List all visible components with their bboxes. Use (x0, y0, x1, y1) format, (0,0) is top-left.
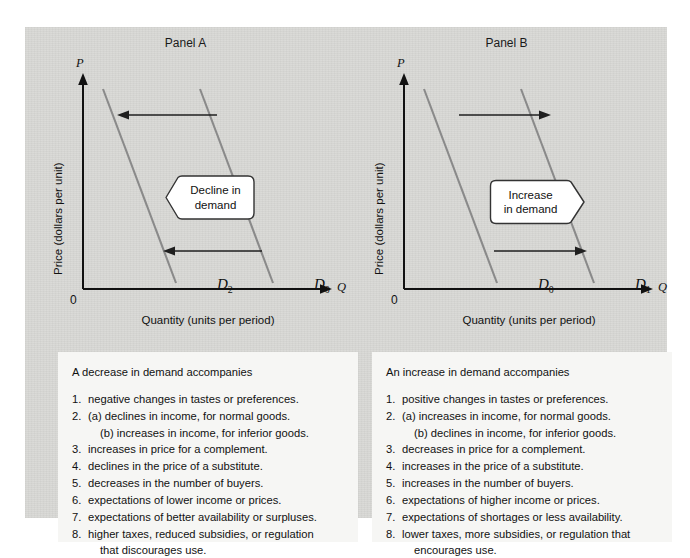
item-text: positive changes in tastes or preference… (402, 393, 608, 405)
box-a-list: 1.negative changes in tastes or preferen… (72, 391, 344, 558)
box-b-heading: An increase in demand accompanies (386, 364, 658, 380)
curve-subscript: 0 (549, 284, 554, 295)
panel-b-callout: Increase in demand (489, 179, 585, 225)
item-number: 6. (72, 492, 81, 508)
panel-a-curve-label-d2: D2 (217, 276, 233, 295)
callout-line-2: demand (195, 199, 237, 211)
list-item: 2.(a) declines in income, for normal goo… (72, 408, 344, 441)
panel-a: Panel A P Q 0 Price (dollars per unit) Q… (25, 27, 346, 327)
item-number: 7. (72, 509, 81, 525)
curve-subscript: 0 (325, 284, 330, 295)
item-text: decreases in the number of buyers. (88, 477, 263, 489)
item-number: 1. (386, 391, 395, 407)
item-text: declines in the price of a substitute. (88, 460, 263, 472)
panel-a-y-axis-letter: P (76, 56, 84, 71)
item-text: expectations of lower income or prices. (88, 494, 281, 506)
panel-b-curve-label-d1: D1 (635, 276, 651, 295)
curve-subscript: 1 (646, 284, 651, 295)
item-text: negative changes in tastes or preference… (88, 393, 299, 405)
item-text: higher taxes, reduced subsidies, or regu… (88, 528, 314, 540)
item-text: decreases in price for a complement. (402, 443, 585, 455)
list-item: 7.expectations of better availability or… (72, 509, 344, 525)
item-number: 8. (72, 526, 81, 542)
list-item: 6.expectations of lower income or prices… (72, 492, 344, 508)
item-number: 5. (386, 475, 395, 491)
panel-b-x-axis-letter: Q (658, 280, 667, 295)
item-text: increases in the price of a substitute. (402, 460, 584, 472)
item-number: 5. (72, 475, 81, 491)
panel-a-x-axis-label: Quantity (units per period) (83, 314, 333, 326)
item-subtext: (b) increases in income, for inferior go… (88, 425, 344, 441)
panel-b-x-axis-label: Quantity (units per period) (404, 314, 654, 326)
item-number: 4. (72, 458, 81, 474)
item-text: (a) declines in income, for normal goods… (88, 410, 290, 422)
curve-letter: D (635, 276, 646, 292)
list-item: 5.increases in the number of buyers. (386, 475, 658, 491)
list-item: 4.increases in the price of a substitute… (386, 458, 658, 474)
panel-b-curve-label-d0: D0 (538, 276, 554, 295)
item-number: 7. (386, 509, 395, 525)
list-item: 3.increases in price for a complement. (72, 441, 344, 457)
list-item: 3.decreases in price for a complement. (386, 441, 658, 457)
panel-b-y-axis-letter: P (397, 56, 405, 71)
item-number: 8. (386, 526, 395, 542)
item-text: lower taxes, more subsidies, or regulati… (402, 528, 630, 540)
list-item: 6.expectations of higher income or price… (386, 492, 658, 508)
list-item: 1.negative changes in tastes or preferen… (72, 391, 344, 407)
list-item: 8.higher taxes, reduced subsidies, or re… (72, 526, 344, 558)
box-a-heading: A decrease in demand accompanies (72, 364, 344, 380)
list-item: 4.declines in the price of a substitute. (72, 458, 344, 474)
panel-a-callout-text: Decline in demand (165, 175, 255, 220)
panel-a-x-axis-letter: Q (337, 280, 346, 295)
curve-subscript: 2 (228, 284, 233, 295)
callout-line-1: Increase (508, 189, 552, 201)
callout-line-2: in demand (504, 203, 558, 215)
curve-letter: D (314, 276, 325, 292)
panel-a-origin-label: 0 (70, 293, 77, 307)
item-number: 3. (386, 441, 395, 457)
item-number: 1. (72, 391, 81, 407)
list-item: 7.expectations of shortages or less avai… (386, 509, 658, 525)
curve-letter: D (217, 276, 228, 292)
list-item: 8.lower taxes, more subsidies, or regula… (386, 526, 658, 558)
item-subtext: (b) declines in income, for inferior goo… (402, 425, 658, 441)
panel-b-y-axis-label: Price (dollars per unit) (373, 163, 385, 275)
item-text: increases in price for a complement. (88, 443, 268, 455)
box-b-list: 1.positive changes in tastes or preferen… (386, 391, 658, 558)
item-text: expectations of higher income or prices. (402, 494, 600, 506)
panel-a-curve-label-d0: D0 (314, 276, 330, 295)
item-number: 2. (386, 408, 395, 424)
decrease-in-demand-box: A decrease in demand accompanies 1.negat… (58, 352, 358, 542)
item-number: 6. (386, 492, 395, 508)
item-text: increases in the number of buyers. (402, 477, 574, 489)
panel-a-callout: Decline in demand (165, 175, 255, 220)
item-number: 4. (386, 458, 395, 474)
list-item: 1.positive changes in tastes or preferen… (386, 391, 658, 407)
panel-a-y-axis-label: Price (dollars per unit) (52, 163, 64, 275)
list-item: 5.decreases in the number of buyers. (72, 475, 344, 491)
callout-line-1: Decline in (190, 184, 241, 196)
item-subtext: encourages use. (402, 542, 658, 558)
panel-b-callout-text: Increase in demand (489, 179, 585, 225)
item-subtext: that discourages use. (88, 542, 344, 558)
figure-container: Panel A P Q 0 Price (dollars per unit) Q… (25, 27, 667, 518)
item-text: expectations of shortages or less availa… (402, 511, 623, 523)
item-text: expectations of better availability or s… (88, 511, 317, 523)
panel-b: Panel B P Q 0 Price (dollars per unit) Q… (346, 27, 667, 327)
curve-letter: D (538, 276, 549, 292)
increase-in-demand-box: An increase in demand accompanies 1.posi… (372, 352, 672, 542)
item-number: 2. (72, 408, 81, 424)
item-number: 3. (72, 441, 81, 457)
panel-b-origin-label: 0 (391, 293, 398, 307)
panel-b-plot (346, 27, 667, 327)
item-text: (a) increases in income, for normal good… (402, 410, 611, 422)
list-item: 2.(a) increases in income, for normal go… (386, 408, 658, 441)
